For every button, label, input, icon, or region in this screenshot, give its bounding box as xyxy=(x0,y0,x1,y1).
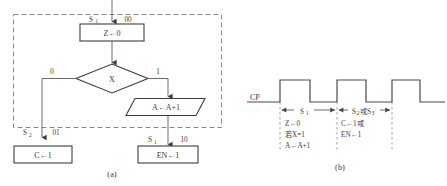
state-label-right: S xyxy=(148,136,152,144)
state-code-left: 01 xyxy=(52,129,60,137)
branch-true-label: 1 xyxy=(156,68,160,76)
interval-1-label: S xyxy=(300,108,304,116)
state-label-left: S xyxy=(23,129,27,137)
figure-svg: Z←0 S 1 00 X 0 1 A←A+1 S 2 01 C←1 S 1 1 xyxy=(0,0,447,186)
figure-root: Z←0 S 1 00 X 0 1 A←A+1 S 2 01 C←1 S 1 1 xyxy=(0,0,447,186)
interval-1-label-bg xyxy=(294,104,314,116)
interval-2-label-b: S xyxy=(367,108,371,116)
interval-1-action-line-1: Z←0 xyxy=(285,120,301,128)
interval-2-conjunction: 或 xyxy=(360,107,367,116)
interval-2-label-b-sub: 3 xyxy=(372,110,375,116)
interval-1-action-line-3: A←A+1 xyxy=(285,142,311,150)
caption-b: (b) xyxy=(335,163,345,172)
state-label-left-sub: 2 xyxy=(29,132,32,138)
decision-label-x: X xyxy=(109,75,115,84)
clock-waveform xyxy=(247,80,445,102)
interval-1-label-sub: 1 xyxy=(306,110,309,116)
state-label-right-sub: 1 xyxy=(154,139,157,145)
interval-2-action-line-1: C←1或 xyxy=(341,119,364,128)
state-label-top: S xyxy=(89,16,93,24)
process-box-z-label: Z←0 xyxy=(104,29,121,38)
caption-a: (a) xyxy=(107,170,117,179)
clock-label-cp: CP xyxy=(250,93,260,102)
process-box-en-label: EN←1 xyxy=(157,151,180,160)
branch-false-label: 0 xyxy=(50,68,54,76)
state-code-top: 00 xyxy=(124,16,132,24)
interval-1-action-line-2: 若X=1 xyxy=(285,130,305,139)
interval-2-action-line-2: EN←1 xyxy=(341,131,362,139)
state-label-top-sub: 1 xyxy=(95,18,98,24)
process-box-c-label: C←1 xyxy=(34,151,51,160)
io-increment-label: A←A+1 xyxy=(152,103,180,112)
interval-2-label-a: S xyxy=(352,108,356,116)
state-code-right: 10 xyxy=(180,136,188,144)
